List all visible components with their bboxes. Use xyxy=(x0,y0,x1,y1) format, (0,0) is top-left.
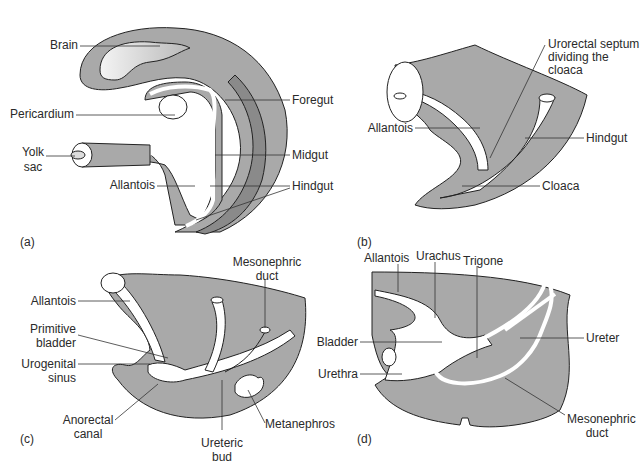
panel-a-embryo xyxy=(71,28,287,234)
label-ureter: Ureter xyxy=(586,332,619,345)
label-metanephros: Metanephros xyxy=(265,418,335,431)
panel-d-tag: (d) xyxy=(357,432,372,446)
label-bladder: Bladder xyxy=(300,336,358,349)
panel-b-tag: (b) xyxy=(357,235,372,249)
label-midgut: Midgut xyxy=(292,149,328,162)
label-primitive-bladder-2: bladder xyxy=(10,337,76,350)
label-allantois-d: Allantois xyxy=(364,252,409,265)
label-ureteric-bud-2: bud xyxy=(200,451,244,464)
label-trigone: Trigone xyxy=(463,255,503,268)
label-yolk-sac-2: sac xyxy=(18,161,48,174)
label-cloaca: Cloaca xyxy=(542,180,579,193)
panel-a-tag: (a) xyxy=(20,235,35,249)
label-mesonephric-duct-d-1: Mesonephric xyxy=(567,413,636,426)
label-urogenital-sinus-2: sinus xyxy=(10,372,76,385)
label-allantois-b: Allantois xyxy=(350,122,413,135)
label-urethra: Urethra xyxy=(300,368,358,381)
label-pericardium: Pericardium xyxy=(0,108,74,121)
label-ureteric-bud-1: Ureteric xyxy=(200,437,244,450)
label-urorectal-3: cloaca xyxy=(548,64,583,77)
label-yolk-sac-1: Yolk xyxy=(18,146,48,159)
label-hindgut-b: Hindgut xyxy=(586,132,627,145)
panel-d-bladder-urethra xyxy=(372,272,570,427)
label-foregut: Foregut xyxy=(292,94,333,107)
label-urogenital-sinus-1: Urogenital xyxy=(10,358,76,371)
label-urachus: Urachus xyxy=(416,250,461,263)
label-hindgut-a: Hindgut xyxy=(292,180,333,193)
panel-c-bladder-development xyxy=(101,273,306,418)
label-primitive-bladder-1: Primitive xyxy=(10,323,76,336)
label-mesonephric-duct-c-2: duct xyxy=(232,270,302,283)
label-allantois-c: Allantois xyxy=(10,295,76,308)
label-anorectal-canal-2: canal xyxy=(60,428,116,441)
label-allantois-a: Allantois xyxy=(95,179,155,192)
label-mesonephric-duct-c-1: Mesonephric xyxy=(232,256,302,269)
label-anorectal-canal-1: Anorectal xyxy=(60,414,116,427)
label-mesonephric-duct-d-2: duct xyxy=(567,427,627,440)
panel-c-tag: (c) xyxy=(20,432,34,446)
label-brain: Brain xyxy=(30,39,78,52)
